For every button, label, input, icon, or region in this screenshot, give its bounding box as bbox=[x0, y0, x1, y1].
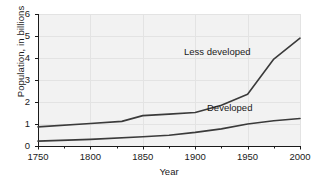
x-tick-label: 1950 bbox=[228, 152, 268, 162]
y-tick-label: 4 bbox=[16, 53, 30, 63]
y-tick-label: 6 bbox=[16, 9, 30, 19]
y-tick-label: 5 bbox=[16, 31, 30, 41]
y-tick-label: 3 bbox=[16, 75, 30, 85]
x-tick-label: 1800 bbox=[70, 152, 110, 162]
y-tick-label: 2 bbox=[16, 97, 30, 107]
x-tick-label: 1750 bbox=[18, 152, 58, 162]
series-label-less-developed: Less developed bbox=[184, 46, 251, 57]
y-tick-label: 0 bbox=[16, 141, 30, 151]
y-tick-label: 1 bbox=[16, 119, 30, 129]
x-tick-label: 1850 bbox=[123, 152, 163, 162]
x-tick-label: 2000 bbox=[280, 152, 314, 162]
population-line-chart: Population, in billions Year 0123456 175… bbox=[0, 0, 314, 186]
x-tick-label: 1900 bbox=[175, 152, 215, 162]
series-label-developed: Developed bbox=[207, 102, 252, 113]
x-axis-title: Year bbox=[38, 166, 300, 177]
